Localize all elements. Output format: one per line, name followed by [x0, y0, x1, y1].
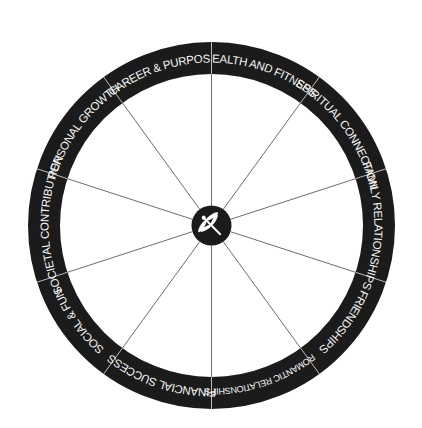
spoke-line — [223, 242, 300, 348]
spoke-line — [231, 179, 356, 220]
spoke-line — [67, 179, 192, 220]
life-wheel-diagram: HEALTH AND FITNESS SPIRITUAL CONNECTION … — [0, 0, 422, 428]
spoke-line — [122, 103, 199, 209]
spoke-line — [122, 242, 199, 348]
center-hub — [192, 206, 232, 246]
spoke-line — [231, 232, 356, 273]
spoke-line — [67, 232, 192, 273]
spoke-line — [223, 103, 300, 209]
